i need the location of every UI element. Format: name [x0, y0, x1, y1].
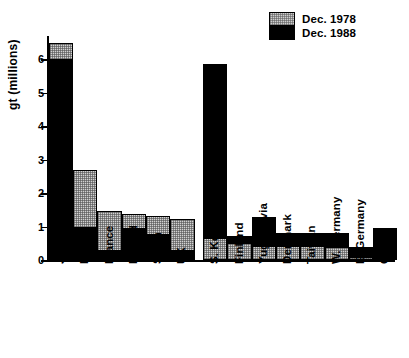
x-axis-label-denmark: Denmark [282, 214, 294, 264]
x-axis-label-china: China [379, 232, 391, 264]
y-tick-label: 5 [38, 87, 44, 99]
x-axis-label-japan: Japan [55, 230, 67, 264]
legend-swatch-dec-1978 [270, 13, 294, 26]
legend-label-dec-1978: Dec. 1978 [302, 12, 356, 26]
x-axis-label-e-germany: E. Germany [355, 199, 367, 264]
x-axis-label-spain: Spain [152, 232, 164, 264]
bar-chart: Dec. 1978 Dec. 1988 gt (millions) 012345… [0, 0, 409, 358]
x-axis-label-france: France [104, 226, 116, 264]
y-tick-label: 1 [38, 221, 44, 233]
x-axis-labels: JapanBrazilFrancePolandSpainUKS. KoreaFi… [47, 264, 395, 358]
y-tick-label: 6 [38, 53, 44, 65]
bar-group [49, 36, 395, 260]
y-tick-label: 0 [38, 254, 44, 266]
x-axis-label-finland: Finland [234, 222, 246, 264]
x-axis-label-taiwan: Taiwan [306, 225, 318, 264]
x-axis-label-poland: Poland [128, 225, 140, 264]
y-axis-title-host: gt (millions) [8, 36, 30, 262]
x-axis-label-uk: UK [176, 247, 188, 264]
x-axis-line [47, 260, 395, 262]
bar-column [49, 43, 73, 261]
y-axis-title: gt (millions) [6, 0, 20, 110]
x-axis-label-brazil: Brazil [79, 232, 91, 264]
x-axis-label-s-korea: S. Korea [209, 217, 221, 264]
x-axis-label-w-germany: W. Germany [331, 197, 343, 264]
y-tick-label: 4 [38, 120, 44, 132]
y-tick-label: 2 [38, 187, 44, 199]
x-axis-label-yugoslavia: Yugoslavia [258, 203, 270, 264]
plot-area: 0123456 [47, 36, 395, 262]
y-tick-label: 3 [38, 154, 44, 166]
